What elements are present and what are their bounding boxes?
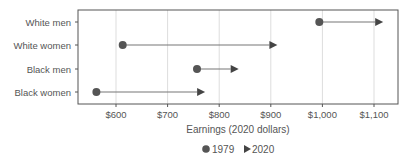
circle-icon: [193, 65, 201, 73]
circle-icon: [202, 145, 210, 153]
data-marks: [92, 18, 383, 96]
y-tick-label: White women: [13, 40, 71, 51]
x-tick-label: $800: [209, 109, 230, 120]
x-tick-label: $900: [260, 109, 281, 120]
x-tick-label: $1,000: [308, 109, 337, 120]
legend: 1979 2020: [202, 144, 274, 155]
y-axis: White menWhite womenBlack menBlack women: [13, 17, 78, 98]
triangle-right-icon: [269, 41, 277, 49]
x-axis-title: Earnings (2020 dollars): [186, 124, 289, 135]
triangle-right-icon: [197, 88, 205, 96]
y-tick-label: Black women: [15, 87, 72, 98]
x-tick-label: $600: [105, 109, 126, 120]
triangle-right-icon: [244, 145, 251, 153]
legend-label-2020: 2020: [252, 144, 275, 155]
x-tick-label: $1,100: [359, 109, 388, 120]
circle-icon: [315, 18, 323, 26]
x-axis: $600$700$800$900$1,000$1,100: [105, 104, 388, 120]
dumbbell-chart: White menWhite womenBlack menBlack women…: [0, 0, 405, 164]
legend-label-1979: 1979: [212, 144, 235, 155]
x-tick-label: $700: [157, 109, 178, 120]
y-tick-label: Black men: [27, 64, 71, 75]
triangle-right-icon: [375, 18, 383, 26]
chart-svg: White menWhite womenBlack menBlack women…: [0, 0, 405, 164]
triangle-right-icon: [231, 65, 239, 73]
plot-frame: [78, 10, 398, 104]
circle-icon: [119, 41, 127, 49]
circle-icon: [92, 88, 100, 96]
y-tick-label: White men: [26, 17, 71, 28]
gridlines: [116, 10, 374, 104]
